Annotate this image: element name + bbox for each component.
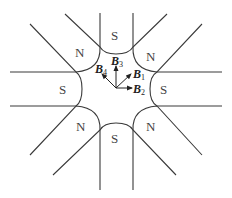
pole-bottom-right [133, 106, 202, 175]
octupole-magnet-diagram: S N S N S N S N B3 B1 B2 B4 [0, 0, 232, 198]
pole-top-left [30, 14, 100, 72]
pole-label-left: S [59, 82, 66, 97]
vector-label-b2: B2 [132, 82, 145, 97]
pole-label-top-right: N [146, 49, 156, 64]
pole-label-bottom-right: N [146, 119, 156, 134]
pole-label-top: S [111, 28, 118, 43]
pole-left [10, 72, 82, 106]
pole-label-top-left: N [75, 45, 85, 60]
pole-bottom-left [30, 106, 100, 175]
pole-label-right: S [160, 82, 167, 97]
pole-label-bottom-left: N [76, 119, 86, 134]
vector-label-b4: B4 [94, 62, 107, 77]
vector-label-b1: B1 [132, 67, 145, 82]
pole-top-right [133, 14, 202, 72]
vector-b1-arrow [116, 74, 131, 88]
pole-label-bottom: S [111, 131, 118, 146]
vector-label-b3: B3 [110, 54, 123, 69]
